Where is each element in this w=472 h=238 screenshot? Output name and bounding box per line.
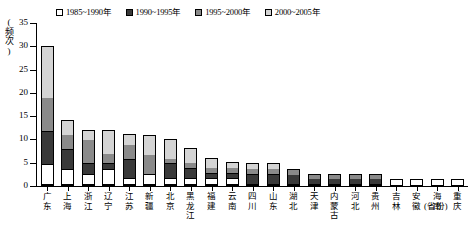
bar-series-container — [37, 23, 468, 186]
bar-segment — [124, 145, 135, 160]
stacked-bar[interactable] — [184, 148, 197, 186]
bar-segment — [329, 179, 340, 185]
bar-column[interactable] — [386, 23, 407, 186]
bar-segment — [247, 175, 258, 185]
bar-column[interactable] — [99, 23, 120, 186]
bar-segment — [432, 180, 443, 185]
stacked-bar[interactable] — [410, 179, 423, 186]
legend-label-1990-1995: 1990~1995年 — [136, 8, 182, 17]
bar-column[interactable] — [181, 23, 202, 186]
legend-label-2000-2005: 2000~2005年 — [275, 8, 321, 17]
stacked-bar[interactable] — [205, 158, 218, 186]
bar-segment — [185, 149, 196, 163]
x-axis-label-char: 徽 — [412, 202, 421, 212]
bar-segment — [206, 179, 217, 185]
chart-legend: 1985~1990年 1990~1995年 1995~2000年 2000~20… — [56, 8, 320, 17]
y-axis-tick-15: 15 — [30, 116, 36, 117]
bar-segment — [268, 175, 279, 185]
bar-column[interactable] — [78, 23, 99, 186]
stacked-bar[interactable] — [61, 120, 74, 186]
y-axis-tick-35: 35 — [30, 23, 36, 24]
bar-column[interactable] — [140, 23, 161, 186]
legend-swatch-2000-2005 — [265, 9, 272, 16]
bar-column[interactable] — [201, 23, 222, 186]
bar-segment — [83, 164, 94, 174]
x-axis-label: 湖北 — [283, 192, 304, 221]
bar-column[interactable] — [263, 23, 284, 186]
bar-segment — [165, 179, 176, 185]
bar-segment — [83, 175, 94, 185]
stacked-bar[interactable] — [369, 174, 382, 186]
bar-column[interactable] — [427, 23, 448, 186]
stacked-bar[interactable] — [143, 135, 156, 186]
bar-segment — [288, 175, 299, 185]
bar-column[interactable] — [119, 23, 140, 186]
bar-segment — [144, 155, 155, 175]
legend-swatch-1995-2000 — [195, 9, 202, 16]
bar-column[interactable] — [222, 23, 243, 186]
bar-column[interactable] — [407, 23, 428, 186]
bar-column[interactable] — [448, 23, 469, 186]
bar-segment — [350, 179, 361, 185]
bar-segment — [165, 140, 176, 159]
x-axis-label-char: 苏 — [125, 202, 134, 212]
bar-column[interactable] — [324, 23, 345, 186]
legend-swatch-1990-1995 — [126, 9, 133, 16]
legend-label-1985-1990: 1985~1990年 — [66, 8, 112, 17]
x-axis-label: 重庆 — [448, 192, 469, 221]
bar-segment — [103, 170, 114, 185]
x-axis-label: 山东 — [263, 192, 284, 221]
x-axis-label: 新疆 — [140, 192, 161, 221]
bar-column[interactable] — [304, 23, 325, 186]
x-axis-label: 江苏 — [119, 192, 140, 221]
x-axis-label-char: 津 — [310, 202, 319, 212]
bar-column[interactable] — [366, 23, 387, 186]
y-axis-label-char-3: ) — [2, 47, 16, 57]
bar-column[interactable] — [345, 23, 366, 186]
stacked-bar[interactable] — [287, 169, 300, 186]
stacked-bar[interactable] — [451, 179, 464, 186]
stacked-bar[interactable] — [328, 174, 341, 186]
bar-segment — [144, 175, 155, 185]
bar-column[interactable] — [58, 23, 79, 186]
bar-segment — [42, 165, 53, 185]
stacked-bar[interactable] — [246, 163, 259, 186]
bar-segment — [411, 180, 422, 185]
x-axis-label-char: 南 — [228, 202, 237, 212]
x-axis-label: 北京 — [160, 192, 181, 221]
y-axis-tick-25: 25 — [30, 70, 36, 71]
x-axis-label-char: 海 — [63, 202, 72, 212]
stacked-bar[interactable] — [267, 163, 280, 186]
stacked-bar[interactable] — [164, 139, 177, 186]
bar-segment — [227, 179, 238, 185]
bar-column[interactable] — [37, 23, 58, 186]
x-axis-label: 福建 — [201, 192, 222, 221]
stacked-bar[interactable] — [431, 179, 444, 186]
stacked-bar[interactable] — [41, 46, 54, 186]
x-axis-label-char: 川 — [248, 202, 257, 212]
stacked-bar[interactable] — [349, 174, 362, 186]
bar-column[interactable] — [242, 23, 263, 186]
x-axis-label: 广东 — [37, 192, 58, 221]
legend-label-1995-2000: 1995~2000年 — [205, 8, 251, 17]
stacked-bar[interactable] — [123, 134, 136, 186]
y-axis-tick-label-15: 15 — [19, 111, 28, 120]
stacked-bar[interactable] — [308, 174, 321, 186]
x-axis-label-char: 北 — [289, 202, 298, 212]
bar-segment — [83, 140, 94, 164]
y-axis-tick-label-35: 35 — [19, 18, 28, 27]
x-axis-label-char: 江 — [186, 211, 195, 221]
stacked-bar[interactable] — [390, 179, 403, 186]
bar-column[interactable] — [283, 23, 304, 186]
x-axis-label-char: 庆 — [453, 202, 462, 212]
x-axis-label: 四川 — [242, 192, 263, 221]
x-axis-label-char: 建 — [207, 202, 216, 212]
legend-item-1985-1990: 1985~1990年 — [56, 8, 112, 17]
bar-column[interactable] — [160, 23, 181, 186]
stacked-bar[interactable] — [226, 162, 239, 186]
x-axis-label: 黑龙江 — [181, 192, 202, 221]
y-axis-tick-30: 30 — [30, 46, 36, 47]
bar-segment — [185, 169, 196, 179]
stacked-bar[interactable] — [102, 130, 115, 186]
stacked-bar[interactable] — [82, 130, 95, 186]
